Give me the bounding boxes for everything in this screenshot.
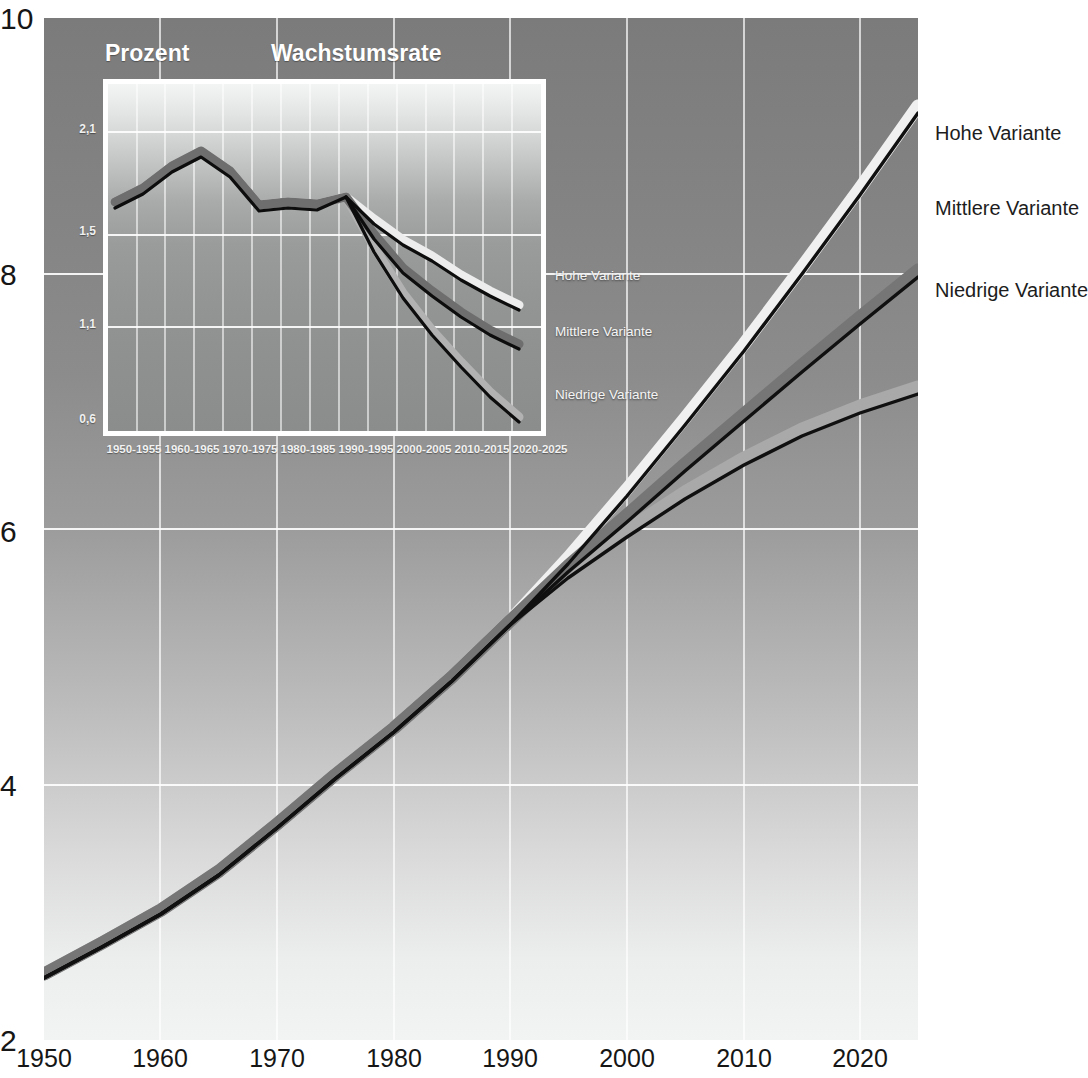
inset-plot-svg bbox=[108, 84, 541, 431]
inset-y-tick-1-1: 1,1 bbox=[62, 317, 96, 331]
inset-legend-hohe-variante: Hohe Variante bbox=[555, 268, 640, 283]
inset-x-tick-2020-2025: 2020-2025 bbox=[484, 443, 596, 455]
growth-rate-inset-chart: Prozent Wachstumsrate bbox=[103, 18, 548, 438]
inset-legend-niedrige-variante: Niedrige Variante bbox=[555, 387, 658, 402]
inset-header: Prozent Wachstumsrate bbox=[103, 18, 548, 79]
inset-series-high-band bbox=[115, 151, 519, 305]
main-legend-niedrige-variante: Niedrige Variante bbox=[935, 279, 1088, 302]
main-y-tick-4: 4 bbox=[0, 769, 36, 803]
main-y-tick-10: 10 bbox=[0, 2, 36, 36]
inset-legend-mittlere-variante: Mittlere Variante bbox=[555, 324, 652, 339]
inset-y-tick-1-5: 1,5 bbox=[62, 224, 96, 238]
main-y-tick-8: 8 bbox=[0, 258, 36, 292]
inset-chart-title: Wachstumsrate bbox=[271, 40, 441, 67]
inset-y-tick-0-6: 0,6 bbox=[62, 412, 96, 426]
main-x-tick-2020: 2020 bbox=[820, 1044, 900, 1073]
main-series-low-line bbox=[44, 394, 918, 978]
inset-series-low-band bbox=[115, 151, 519, 417]
inset-vertical-gridlines bbox=[137, 84, 512, 431]
main-legend-hohe-variante: Hohe Variante bbox=[935, 122, 1061, 145]
main-x-tick-2010: 2010 bbox=[704, 1044, 784, 1073]
main-x-tick-1970: 1970 bbox=[237, 1044, 317, 1073]
main-series-low-band bbox=[44, 387, 918, 974]
main-x-tick-2000: 2000 bbox=[587, 1044, 667, 1073]
inset-series-high-line bbox=[115, 157, 519, 310]
main-x-tick-1990: 1990 bbox=[470, 1044, 550, 1073]
main-x-tick-1960: 1960 bbox=[120, 1044, 200, 1073]
inset-axis-title: Prozent bbox=[105, 40, 189, 67]
main-y-tick-6: 6 bbox=[0, 515, 36, 549]
main-x-tick-1950: 1950 bbox=[4, 1044, 84, 1073]
main-legend-mittlere-variante: Mittlere Variante bbox=[935, 197, 1079, 220]
inset-plot-area bbox=[103, 79, 546, 436]
inset-y-tick-2-1: 2,1 bbox=[62, 122, 96, 136]
main-x-tick-1980: 1980 bbox=[354, 1044, 434, 1073]
